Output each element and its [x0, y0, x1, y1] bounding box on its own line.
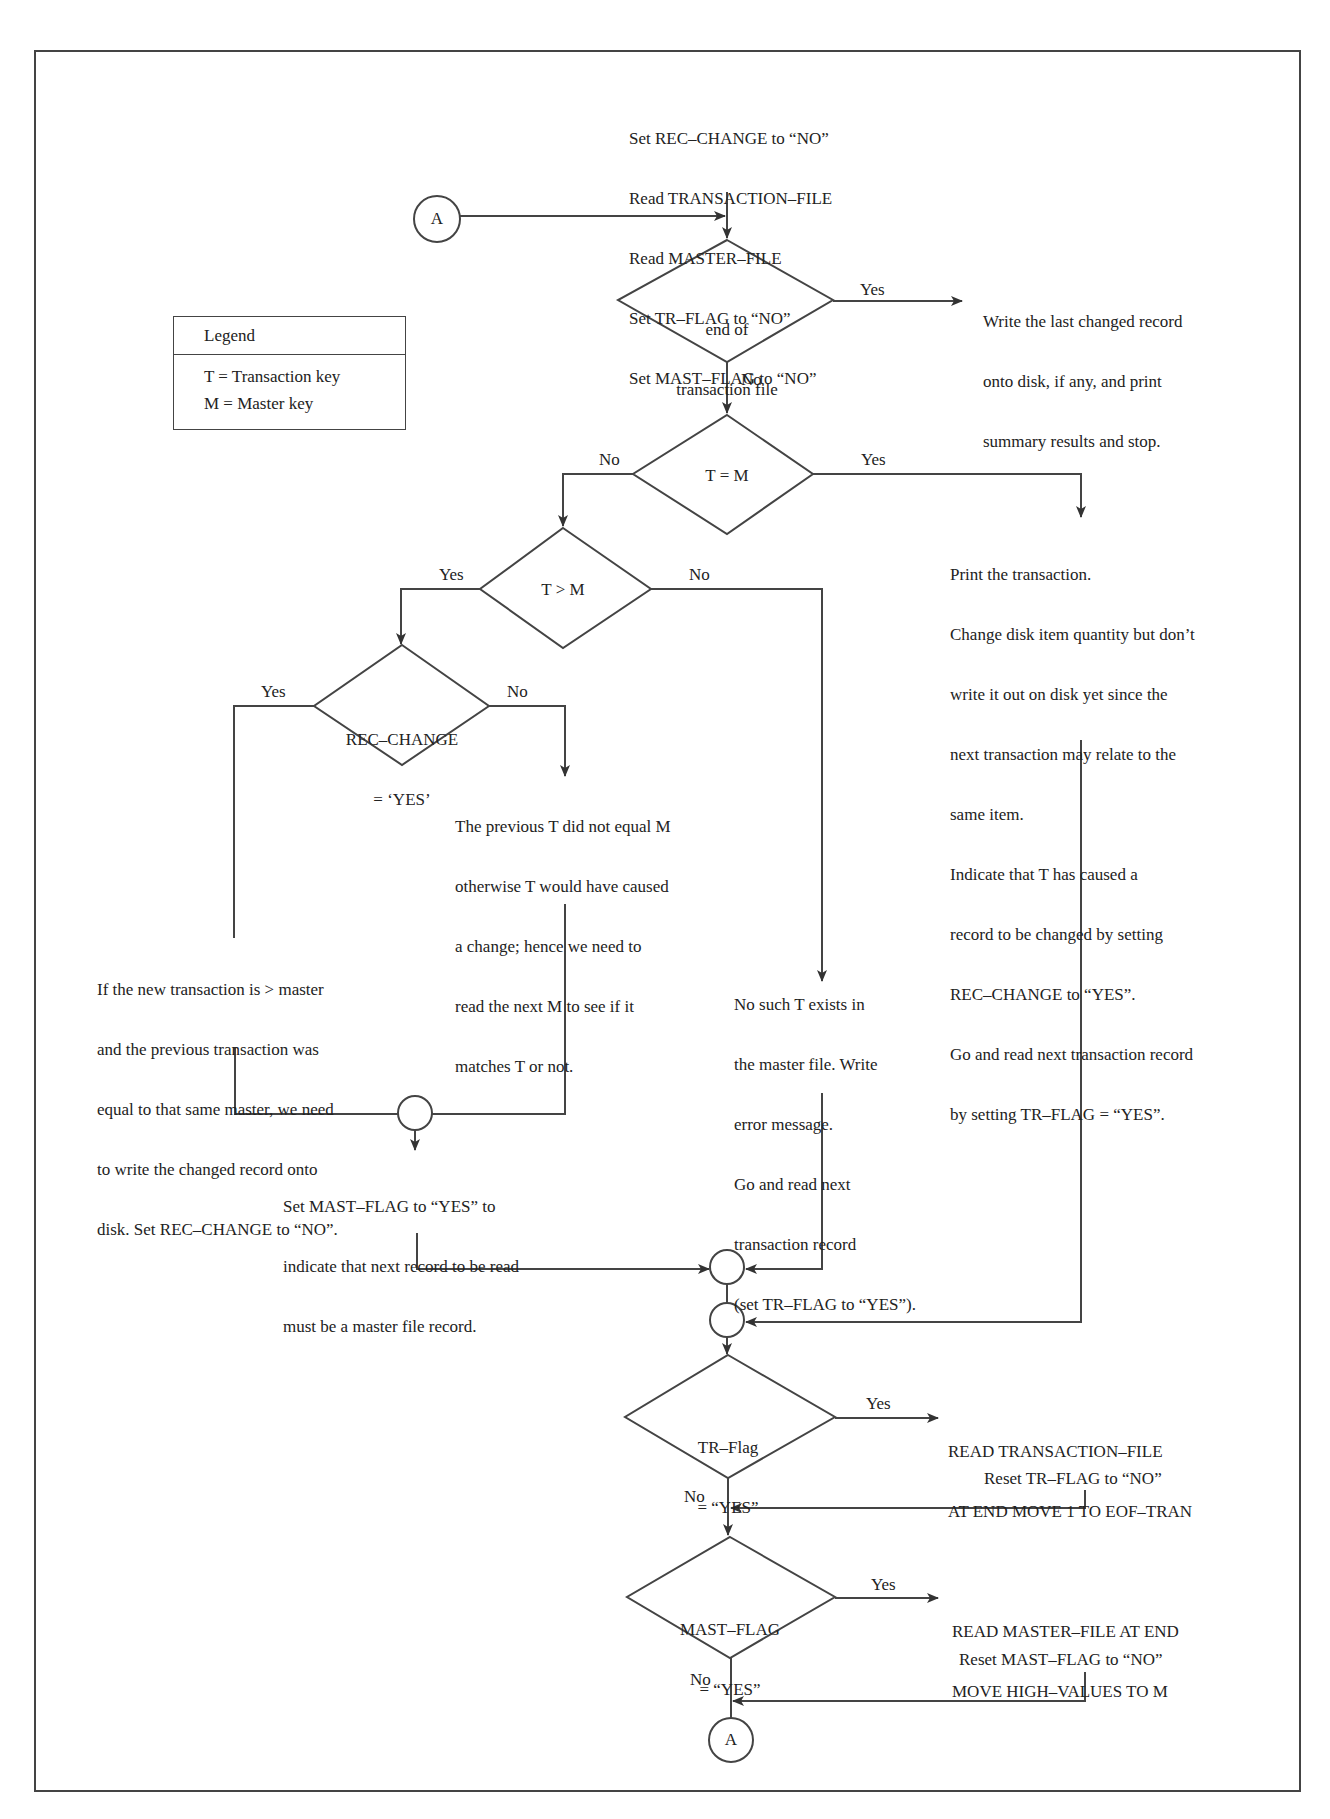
rec-change-yes-label: Yes [261, 682, 286, 702]
tr-flag-no-label: No [684, 1487, 705, 1507]
process-line: equal to that same master, we need [97, 1100, 338, 1120]
decision-line: TR–Flag [660, 1438, 796, 1458]
process-line: Go and read next [734, 1175, 916, 1195]
tr-flag-yes-label: Yes [866, 1394, 891, 1414]
process-line: otherwise T would have caused [455, 877, 671, 897]
process-line: the master file. Write [734, 1055, 916, 1075]
legend-box: Legend T = Transaction key M = Master ke… [173, 316, 406, 430]
mast-flag-yes-label: Yes [871, 1575, 896, 1595]
connector-a-top-label: A [425, 209, 449, 229]
decision-tr-flag-label: TR–Flag = “YES” [660, 1398, 796, 1538]
decision-eof-label: end of transaction file [647, 280, 807, 420]
decision-line: MAST–FLAG [655, 1620, 805, 1640]
process-line: READ MASTER–FILE AT END [952, 1622, 1179, 1642]
process-reset-tr-flag: Reset TR–FLAG to “NO” [984, 1469, 1162, 1489]
process-line: AT END MOVE 1 TO EOF–TRAN [948, 1502, 1192, 1522]
rec-change-no-label: No [507, 682, 528, 702]
process-line: record to be changed by setting [950, 925, 1195, 945]
mast-flag-no-label: No [690, 1670, 711, 1690]
t-gt-m-no-label: No [689, 565, 710, 585]
process-line: transaction record [734, 1235, 916, 1255]
decision-line: transaction file [647, 380, 807, 400]
legend-title: Legend [174, 317, 405, 355]
process-eof-yes: Write the last changed record onto disk,… [983, 272, 1182, 472]
process-line: The previous T did not equal M [455, 817, 671, 837]
process-line: Write the last changed record [983, 312, 1182, 332]
decision-mast-flag-label: MAST–FLAG = “YES” [655, 1580, 805, 1720]
process-line: Set MAST–FLAG to “YES” to [283, 1197, 519, 1217]
t-eq-m-no-label: No [599, 450, 620, 470]
process-line: No such T exists in [734, 995, 916, 1015]
process-line: Go and read next transaction record [950, 1045, 1195, 1065]
process-line: Indicate that T has caused a [950, 865, 1195, 885]
process-line: summary results and stop. [983, 432, 1182, 452]
legend-item-m: M = Master key [174, 390, 405, 417]
decision-line: = “YES” [660, 1498, 796, 1518]
process-line: a change; hence we need to [455, 937, 671, 957]
decision-line: = “YES” [655, 1680, 805, 1700]
process-line: and the previous transaction was [97, 1040, 338, 1060]
process-line: If the new transaction is > master [97, 980, 338, 1000]
process-line: matches T or not. [455, 1057, 671, 1077]
process-line: Change disk item quantity but don’t [950, 625, 1195, 645]
decision-line: REC–CHANGE [322, 730, 482, 750]
process-t-gt-m-no: No such T exists in the master file. Wri… [734, 955, 916, 1335]
process-line: indicate that next record to be read [283, 1257, 519, 1277]
process-line: error message. [734, 1115, 916, 1135]
process-t-eq-m-yes: Print the transaction. Change disk item … [950, 525, 1195, 1145]
process-line: Print the transaction. [950, 565, 1195, 585]
process-line: same item. [950, 805, 1195, 825]
init-line: Read MASTER–FILE [629, 249, 832, 269]
decision-t-gt-m-label: T > M [505, 580, 621, 600]
process-line: READ TRANSACTION–FILE [948, 1442, 1192, 1462]
t-eq-m-yes-label: Yes [861, 450, 886, 470]
decision-t-eq-m-label: T = M [667, 466, 787, 486]
t-gt-m-yes-label: Yes [439, 565, 464, 585]
legend-item-t: T = Transaction key [174, 363, 405, 390]
process-line: by setting TR–FLAG = “YES”. [950, 1105, 1195, 1125]
process-line: next transaction may relate to the [950, 745, 1195, 765]
process-line: REC–CHANGE to “YES”. [950, 985, 1195, 1005]
process-line: read the next M to see if it [455, 997, 671, 1017]
init-line: Set REC–CHANGE to “NO” [629, 129, 832, 149]
init-line: Read TRANSACTION–FILE [629, 189, 832, 209]
eof-no-label: No [741, 370, 762, 390]
process-line: (set TR–FLAG to “YES”). [734, 1295, 916, 1315]
junction-circle-1 [398, 1096, 432, 1130]
process-rec-change-no: The previous T did not equal M otherwise… [455, 777, 671, 1097]
process-line: MOVE HIGH–VALUES TO M [952, 1682, 1179, 1702]
process-reset-mast-flag: Reset MAST–FLAG to “NO” [959, 1650, 1163, 1670]
process-line: onto disk, if any, and print [983, 372, 1182, 392]
process-set-mast-flag: Set MAST–FLAG to “YES” to indicate that … [283, 1157, 519, 1357]
process-line: write it out on disk yet since the [950, 685, 1195, 705]
connector-a-bottom-label: A [719, 1730, 743, 1750]
process-line: must be a master file record. [283, 1317, 519, 1337]
eof-yes-label: Yes [860, 280, 885, 300]
decision-line: end of [647, 320, 807, 340]
